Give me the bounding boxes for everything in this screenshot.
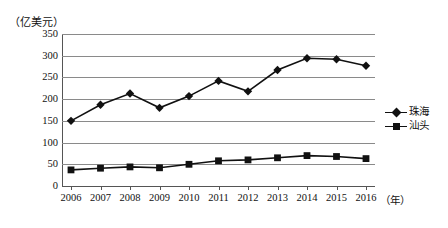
- data-point-marker: [362, 62, 370, 70]
- series-line-zhuhai: [71, 58, 366, 121]
- data-point-marker: [67, 117, 75, 125]
- data-point-marker: [332, 55, 340, 63]
- data-point-marker: [274, 154, 281, 161]
- legend-item-zhuhai[interactable]: 珠海: [385, 105, 429, 119]
- y-tick-label: 250: [18, 72, 58, 82]
- x-tick: [71, 186, 72, 190]
- x-tick: [307, 186, 308, 190]
- data-point-marker: [155, 104, 163, 112]
- data-point-marker: [96, 101, 104, 109]
- x-tick: [278, 186, 279, 190]
- legend-item-shantou[interactable]: 汕头: [385, 119, 429, 133]
- legend-label-shantou: 汕头: [409, 119, 429, 133]
- y-tick-label: 0: [18, 181, 58, 191]
- x-tick: [366, 186, 367, 190]
- data-point-marker: [127, 164, 134, 171]
- data-point-marker: [214, 77, 222, 85]
- diamond-marker-icon: [385, 106, 407, 118]
- data-point-marker: [333, 153, 340, 160]
- data-point-marker: [215, 157, 222, 164]
- x-tick: [337, 186, 338, 190]
- data-point-marker: [68, 167, 75, 174]
- data-point-marker: [245, 157, 252, 164]
- data-point-marker: [97, 165, 104, 172]
- x-tick: [160, 186, 161, 190]
- square-marker-icon: [385, 120, 407, 132]
- y-tick-label: 100: [18, 138, 58, 148]
- y-tick-label: 50: [18, 159, 58, 169]
- data-point-marker: [186, 161, 193, 168]
- y-tick-label: 350: [18, 29, 58, 39]
- series-plot: [62, 34, 375, 186]
- x-axis-title: （年）: [380, 192, 410, 207]
- x-tick: [189, 186, 190, 190]
- x-tick: [219, 186, 220, 190]
- data-point-marker: [363, 155, 370, 162]
- chart-legend: 珠海 汕头: [385, 105, 429, 133]
- data-point-marker: [156, 164, 163, 171]
- x-tick: [248, 186, 249, 190]
- data-point-marker: [126, 89, 134, 97]
- legend-label-zhuhai: 珠海: [409, 105, 429, 119]
- plot-area: [62, 34, 375, 186]
- y-tick-label: 200: [18, 94, 58, 104]
- data-point-marker: [304, 152, 311, 159]
- data-point-marker: [303, 54, 311, 62]
- x-tick: [130, 186, 131, 190]
- y-tick-label: 150: [18, 116, 58, 126]
- x-tick: [101, 186, 102, 190]
- data-point-marker: [185, 92, 193, 100]
- y-tick-label: 300: [18, 51, 58, 61]
- line-chart: （亿美元） 050100150200250300350 200620072008…: [0, 0, 448, 228]
